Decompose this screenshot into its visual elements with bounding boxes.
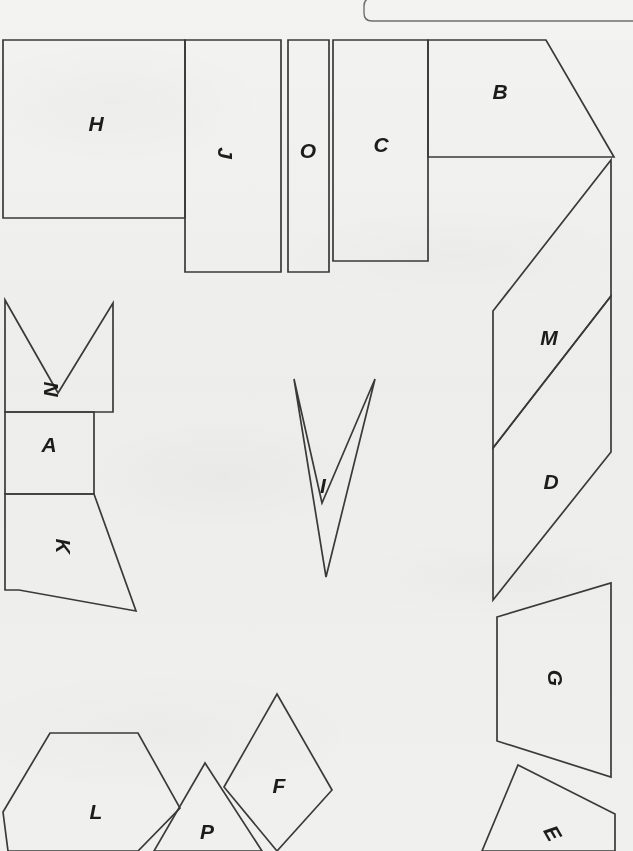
shape-outline-m[interactable] [493,160,611,448]
shape-l[interactable]: L [3,733,180,851]
shape-label-j: J [214,147,237,160]
shape-label-n: N [40,381,63,397]
shape-j[interactable]: J [185,40,281,272]
shape-n[interactable]: N [5,300,113,412]
figure-layer: HJOCBMDNAKIGELPF [0,0,633,851]
shape-label-a: A [40,433,56,456]
shape-outline-i[interactable] [294,379,375,577]
shape-label-m: M [540,326,558,349]
worksheet-page: HJOCBMDNAKIGELPF [0,0,633,851]
shape-outline-b[interactable] [428,40,614,157]
shape-outline-l[interactable] [3,733,180,851]
shape-k[interactable]: K [5,494,136,611]
shape-p[interactable]: P [154,763,262,851]
shape-label-f: F [273,774,287,797]
shape-i[interactable]: I [294,379,375,577]
shape-label-c: C [373,133,389,156]
shape-e[interactable]: E [482,765,615,851]
shape-label-p: P [200,820,215,843]
cropped-rounded-box [364,0,633,21]
shape-label-e: E [539,821,566,845]
shape-outline-f[interactable] [224,694,332,851]
shape-f[interactable]: F [224,694,332,851]
shape-group: HJOCBMDNAKIGELPF [3,40,615,851]
shape-g[interactable]: G [497,583,611,777]
shape-label-g: G [544,670,567,686]
shape-label-o: O [300,139,316,162]
shape-a[interactable]: A [5,412,94,494]
shape-m[interactable]: M [493,160,611,448]
shape-label-k: K [52,538,75,555]
shape-c[interactable]: C [333,40,428,261]
shape-label-h: H [88,112,104,135]
shape-h[interactable]: H [3,40,185,218]
shape-o[interactable]: O [288,40,329,272]
shape-label-d: D [543,470,558,493]
shape-label-b: B [492,80,507,103]
shape-label-l: L [90,800,103,823]
shape-b[interactable]: B [428,40,614,157]
shapes-canvas: HJOCBMDNAKIGELPF [0,0,633,851]
